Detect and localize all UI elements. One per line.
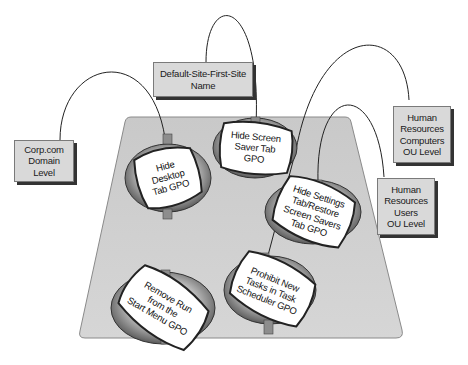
gpo-diagram: Corp.com Domain Level Default-Site-First… [0,0,468,365]
container-hr-computers-label: Human Resources Computers OU Level [400,112,445,158]
container-hr-users: Human Resources Users OU Level [377,178,435,235]
gpo-screensaver-label: Hide Screen Saver Tab GPO [221,128,290,167]
container-hr-users-label: Human Resources Users OU Level [384,184,428,230]
container-domain-label: Corp.com Domain Level [24,144,64,179]
container-domain: Corp.com Domain Level [14,140,74,182]
container-site-label: Default-Site-First-Site Name [160,68,246,91]
container-hr-computers: Human Resources Computers OU Level [393,106,451,163]
container-site: Default-Site-First-Site Name [153,62,253,97]
